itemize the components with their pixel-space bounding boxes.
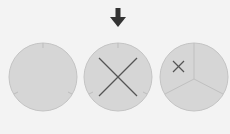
diagram-canvas: [0, 0, 230, 134]
down-arrow-icon: [110, 8, 126, 27]
circle-empty[interactable]: [9, 43, 77, 111]
circle-full-x[interactable]: [84, 43, 152, 111]
circle-sector-x[interactable]: [160, 43, 228, 111]
